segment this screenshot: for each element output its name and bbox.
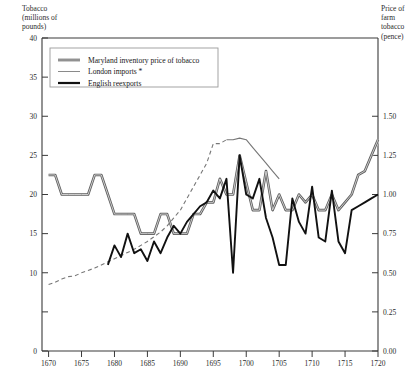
x-tick-label: 1685: [140, 359, 155, 368]
y-tick-label-left: 40: [30, 34, 38, 43]
series-layer: [49, 138, 378, 284]
x-tick-label: 1690: [173, 359, 188, 368]
chart-legend: Maryland inventory price of tobaccoLondo…: [50, 48, 218, 88]
y-axis-left-ticks: 010152025303540: [30, 34, 49, 356]
y-tick-label-left: 35: [30, 73, 38, 82]
y-tick-label-left: 15: [30, 229, 38, 238]
legend-label: English reexports: [88, 79, 141, 88]
y-tick-label-right: 0.00: [383, 347, 396, 356]
x-tick-label: 1680: [107, 359, 122, 368]
x-tick-label: 1670: [41, 359, 56, 368]
series-line-english-reexports: [108, 155, 378, 272]
y-tick-label-right: 1.25: [383, 151, 396, 160]
legend-label: London imports *: [88, 67, 143, 76]
y-tick-label-left: 10: [30, 269, 38, 278]
x-tick-label: 1710: [305, 359, 320, 368]
tobacco-price-chart: 010152025303540 0.000.250.500.751.001.25…: [0, 0, 420, 383]
y-tick-label-right: 1.50: [383, 112, 396, 121]
x-tick-label: 1720: [371, 359, 386, 368]
y-tick-label-left: 25: [30, 151, 38, 160]
x-tick-label: 1695: [206, 359, 221, 368]
y-tick-label-left: 0: [33, 347, 37, 356]
legend-label: Maryland inventory price of tobacco: [88, 56, 200, 65]
x-tick-label: 1715: [338, 359, 353, 368]
x-tick-label: 1700: [239, 359, 254, 368]
series-line-london-imports: [226, 138, 279, 179]
y-tick-label-right: 0.50: [383, 269, 396, 278]
y-tick-label-left: 20: [30, 190, 38, 199]
x-tick-label: 1705: [272, 359, 287, 368]
x-axis-ticks: 1670167516801685169016951700170517101715…: [41, 351, 386, 368]
x-tick-label: 1675: [74, 359, 89, 368]
y-tick-label-right: 0.75: [383, 229, 396, 238]
y-tick-label-right: 0.25: [383, 308, 396, 317]
y-tick-label-left: 30: [30, 112, 38, 121]
y-tick-label-right: 1.00: [383, 190, 396, 199]
